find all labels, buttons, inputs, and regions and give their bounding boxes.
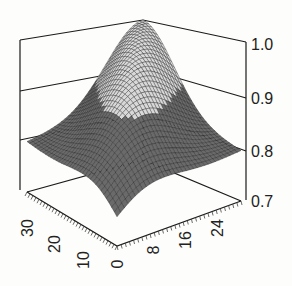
y-label-30: 30: [19, 219, 36, 237]
y-label-20: 20: [46, 235, 63, 253]
y-label-0: 0: [109, 259, 126, 268]
z-label-0-7: 0.7: [251, 193, 273, 210]
y-label-10: 10: [75, 251, 92, 269]
surface-plot: 1.0 0.9 0.8 0.7 30 20 10 0 8 16 24: [0, 0, 292, 286]
z-label-1-0: 1.0: [251, 36, 273, 53]
z-label-0-8: 0.8: [251, 143, 273, 160]
x-label-16: 16: [177, 231, 194, 249]
x-label-8: 8: [145, 245, 162, 254]
z-label-0-9: 0.9: [251, 90, 273, 107]
x-label-24: 24: [209, 219, 226, 237]
